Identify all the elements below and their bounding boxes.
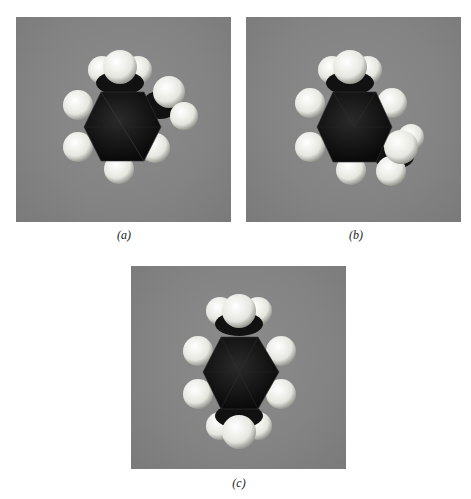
panel-c-image xyxy=(131,266,346,469)
panel-c-caption: (c) xyxy=(219,476,259,491)
panel-b-caption: (b) xyxy=(336,228,376,243)
panel-b-image xyxy=(246,17,461,222)
molecule-meta-model xyxy=(246,17,461,222)
molecule-para-model xyxy=(131,266,346,469)
molecule-ortho-model xyxy=(16,17,231,222)
panel-a-caption: (a) xyxy=(104,228,144,243)
panel-a-image xyxy=(16,17,231,222)
